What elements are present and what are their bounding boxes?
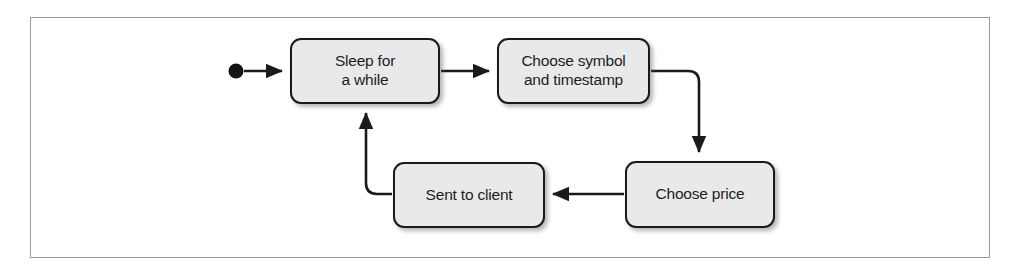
node-label: Sleep for a while xyxy=(329,52,401,90)
node-label: Choose symbol and timestamp xyxy=(515,52,631,90)
node-sent-to-client[interactable]: Sent to client xyxy=(393,162,545,228)
edge-sent-to-sleep xyxy=(366,113,392,194)
flowchart-page: Sleep for a while Choose symbol and time… xyxy=(0,0,1015,272)
edge-symbol-to-price xyxy=(651,71,699,152)
node-choose-symbol-and-timestamp[interactable]: Choose symbol and timestamp xyxy=(497,38,650,104)
node-choose-price[interactable]: Choose price xyxy=(625,161,775,228)
node-label: Choose price xyxy=(650,185,751,204)
node-sleep-for-a-while[interactable]: Sleep for a while xyxy=(290,38,440,104)
start-dot xyxy=(229,64,244,79)
node-label: Sent to client xyxy=(420,186,519,205)
